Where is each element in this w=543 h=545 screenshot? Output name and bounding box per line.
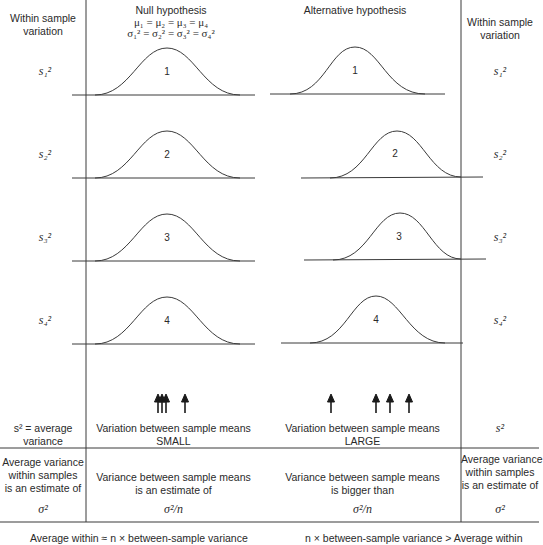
- null-hypothesis-header: Null hypothesis μ₁ = μ₂ = μ₃ = μ₄ σ₁² = …: [86, 4, 256, 39]
- row-label-left-3: s₃²: [30, 231, 60, 244]
- header-line: variation: [0, 25, 86, 38]
- left-estimate-text: Average variance within samples is an es…: [0, 456, 86, 495]
- arrow-icon: [182, 394, 189, 413]
- estimate-line: Variance between sample means: [275, 471, 450, 484]
- header-line: variation: [461, 29, 539, 42]
- alt-mean-arrows: [328, 394, 413, 413]
- left-estimate-value: σ²: [0, 503, 86, 516]
- alt-curve-label-1: 1: [345, 64, 365, 77]
- right-estimate-value: σ²: [461, 503, 539, 516]
- summary-line: LARGE: [275, 435, 450, 448]
- null-curve-label-1: 1: [157, 65, 177, 78]
- estimate-line: is bigger than: [275, 484, 450, 497]
- arrow-icon: [328, 394, 335, 413]
- row-label-right-1: s₁²: [485, 65, 515, 78]
- row-label-right-2: s₂²: [485, 148, 515, 161]
- right-estimate-text: Average variance within samples is an es…: [461, 453, 539, 492]
- row-label-left-1: s₁²: [30, 65, 60, 78]
- null-conclusion: Average within ≈ n × between-sample vari…: [30, 532, 260, 545]
- summary-line: Variation between sample means: [86, 422, 261, 435]
- alt-curve-label-4: 4: [366, 313, 386, 326]
- null-sigma-equation: σ₁² = σ₂² = σ₃² = σ₄²: [86, 28, 256, 39]
- estimate-line: Average variance: [0, 456, 86, 469]
- arrow-icon: [387, 394, 394, 413]
- summary-line: variance: [0, 435, 86, 448]
- left-column-header: Within sample variation: [0, 12, 86, 38]
- estimate-line: is an estimate of: [86, 484, 261, 497]
- right-s2-label: s²: [485, 422, 515, 435]
- alt-curve-label-2: 2: [385, 147, 405, 160]
- null-curve-label-2: 2: [157, 148, 177, 161]
- alt-estimate-text: Variance between sample means is bigger …: [275, 471, 450, 497]
- estimate-line: is an estimate of: [461, 479, 539, 492]
- row-label-left-4: s₄²: [30, 314, 60, 327]
- alt-curve-label-3: 3: [389, 230, 409, 243]
- row-label-right-3: s₃²: [485, 231, 515, 244]
- estimate-line: Average variance: [461, 453, 539, 466]
- average-variance-label: s² = average variance: [0, 422, 86, 448]
- summary-line: Variation between sample means: [275, 422, 450, 435]
- right-column-header: Within sample variation: [461, 16, 539, 42]
- row-label-right-4: s₄²: [485, 314, 515, 327]
- alt-estimate-value: σ²/n: [275, 503, 450, 516]
- summary-line: SMALL: [86, 435, 261, 448]
- row-label-left-2: s₂²: [30, 148, 60, 161]
- estimate-line: within samples: [461, 466, 539, 479]
- estimate-line: Variance between sample means: [86, 471, 261, 484]
- estimate-line: within samples: [0, 469, 86, 482]
- alt-hypothesis-header: Alternative hypothesis: [270, 4, 440, 17]
- estimate-line: is an estimate of: [0, 482, 86, 495]
- null-variation-text: Variation between sample means SMALL: [86, 422, 261, 448]
- null-estimate-text: Variance between sample means is an esti…: [86, 471, 261, 497]
- header-line: Within sample: [0, 12, 86, 25]
- null-curve-label-3: 3: [157, 231, 177, 244]
- null-estimate-value: σ²/n: [86, 503, 261, 516]
- null-curve-label-4: 4: [157, 314, 177, 327]
- arrow-icon: [406, 394, 413, 413]
- header-line: Within sample: [461, 16, 539, 29]
- summary-line: s² = average: [0, 422, 86, 435]
- alt-variation-text: Variation between sample means LARGE: [275, 422, 450, 448]
- null-mean-arrows: [155, 394, 189, 413]
- arrow-icon: [373, 394, 380, 413]
- alt-conclusion: n × between-sample variance > Average wi…: [305, 532, 535, 545]
